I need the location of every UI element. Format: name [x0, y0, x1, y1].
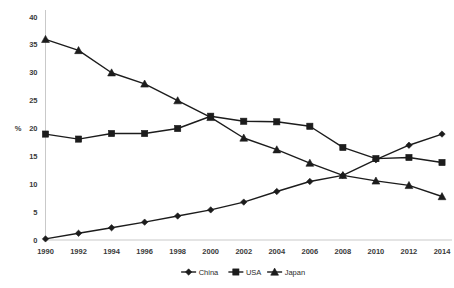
y-axis-tick-label: 40 — [29, 13, 37, 22]
legend-label: Japan — [285, 268, 305, 277]
series-china — [42, 131, 445, 242]
y-axis-tick-label: 35 — [29, 40, 37, 49]
data-point-marker — [108, 130, 114, 136]
series-line-china — [46, 134, 443, 239]
data-point-marker — [274, 119, 280, 125]
x-axis-tick-label: 2008 — [335, 247, 352, 256]
x-axis-tick-label: 1996 — [136, 247, 153, 256]
legend-item-china[interactable]: China — [181, 268, 219, 277]
data-point-marker — [241, 199, 247, 205]
y-axis-tick-label: 10 — [29, 180, 37, 189]
x-axis-tick-label: 2010 — [368, 247, 385, 256]
data-point-marker — [142, 130, 148, 136]
data-point-marker — [208, 207, 214, 213]
x-axis-tick-label: 2006 — [301, 247, 318, 256]
x-axis-tick-label: 2000 — [202, 247, 219, 256]
data-point-marker — [108, 69, 116, 76]
data-point-marker — [240, 134, 248, 141]
y-axis-tick-label: 20 — [29, 124, 37, 133]
y-axis-tick-label: 25 — [29, 96, 37, 105]
x-axis-tick-label: 2012 — [401, 247, 418, 256]
data-point-marker — [307, 123, 313, 129]
y-axis-tick-label: 15 — [29, 152, 37, 161]
data-point-marker — [141, 219, 147, 225]
data-point-marker — [340, 144, 346, 150]
data-point-marker — [233, 269, 239, 275]
y-axis-unit-label: % — [15, 124, 22, 133]
data-point-marker — [185, 269, 191, 275]
data-point-marker — [174, 213, 180, 219]
data-point-marker — [108, 225, 114, 231]
x-axis-tick-label: 2002 — [235, 247, 252, 256]
data-point-marker — [406, 154, 412, 160]
data-point-marker — [42, 35, 50, 42]
x-axis-tick-label: 1992 — [70, 247, 87, 256]
data-point-marker — [306, 159, 314, 166]
data-point-marker — [373, 156, 379, 162]
x-axis-tick-label: 2014 — [434, 247, 452, 256]
y-axis-tick-label: 0 — [33, 236, 37, 245]
data-point-marker — [75, 230, 81, 236]
data-point-marker — [241, 118, 247, 124]
legend-label: USA — [246, 268, 261, 277]
y-axis-tick-label: 30 — [29, 68, 37, 77]
data-point-marker — [174, 97, 182, 104]
legend-item-usa[interactable]: USA — [228, 268, 261, 277]
data-point-marker — [307, 178, 313, 184]
x-axis-tick-label: 2004 — [268, 247, 286, 256]
data-point-marker — [175, 125, 181, 131]
data-point-marker — [439, 131, 445, 137]
data-point-marker — [274, 188, 280, 194]
x-axis-tick-label: 1994 — [103, 247, 121, 256]
data-point-marker — [42, 131, 48, 137]
x-axis-tick-label: 1990 — [37, 247, 54, 256]
y-axis-tick-label: 5 — [33, 208, 37, 217]
data-point-marker — [439, 159, 445, 165]
series-japan — [42, 35, 446, 199]
x-axis-tick-label: 1998 — [169, 247, 186, 256]
line-chart: 0510152025303540%19901992199419961998200… — [0, 0, 454, 288]
legend-item-japan[interactable]: Japan — [267, 268, 305, 277]
data-point-marker — [75, 136, 81, 142]
chart-canvas: 0510152025303540%19901992199419961998200… — [0, 0, 454, 288]
legend-label: China — [199, 268, 219, 277]
data-point-marker — [406, 142, 412, 148]
data-point-marker — [42, 236, 48, 242]
